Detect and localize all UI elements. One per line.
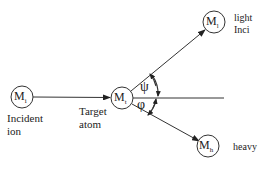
- incident-ion-caption-line2: ion: [7, 125, 43, 138]
- heavy-particle-caption: heavy: [233, 140, 257, 153]
- light-particle-caption-line2: Inci: [234, 24, 252, 36]
- target-atom-caption-line1: Target: [79, 105, 107, 118]
- incident-trajectory: [33, 97, 110, 98]
- heavy-particle-symbol: Mh: [199, 139, 213, 157]
- target-atom-caption: Target atom: [79, 105, 107, 131]
- light-particle-caption-line1: light: [234, 12, 252, 24]
- light-particle-symbol: Ml: [206, 15, 219, 33]
- incident-ion-caption-line1: Incident: [7, 112, 43, 125]
- target-atom-caption-line2: atom: [79, 118, 107, 131]
- incident-ion-caption: Incident ion: [7, 112, 43, 138]
- phi-angle-label: φ: [137, 98, 145, 111]
- target-atom-symbol: Mt: [114, 91, 127, 109]
- light-particle-caption: light Inci: [234, 12, 252, 36]
- incident-ion-symbol: Mi: [14, 90, 27, 108]
- psi-angle-label: ψ: [140, 80, 149, 93]
- collision-diagram: [0, 0, 266, 169]
